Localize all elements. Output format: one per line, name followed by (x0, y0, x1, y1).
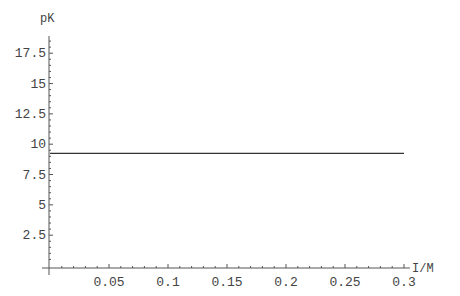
axes (42, 36, 410, 275)
y-tick-label: 15 (30, 77, 46, 92)
chart: 0.050.10.150.20.250.32.557.51012.51517.5… (0, 0, 460, 296)
x-tick-label: 0.1 (156, 275, 180, 290)
ticks (49, 41, 404, 268)
y-tick-label: 10 (30, 137, 46, 152)
y-tick-label: 2.5 (23, 228, 46, 243)
y-tick-label: 5 (38, 198, 46, 213)
x-tick-label: 0.05 (93, 275, 124, 290)
y-tick-label: 17.5 (15, 46, 46, 61)
y-tick-label: 7.5 (23, 168, 46, 183)
tick-labels: 0.050.10.150.20.250.32.557.51012.51517.5 (15, 46, 416, 290)
x-axis-label: I/M (412, 262, 434, 276)
x-tick-label: 0.2 (274, 275, 297, 290)
x-tick-label: 0.15 (211, 275, 242, 290)
x-tick-label: 0.3 (392, 275, 415, 290)
x-tick-label: 0.25 (329, 275, 360, 290)
y-tick-label: 12.5 (15, 107, 46, 122)
y-axis-label: pK (40, 12, 55, 26)
